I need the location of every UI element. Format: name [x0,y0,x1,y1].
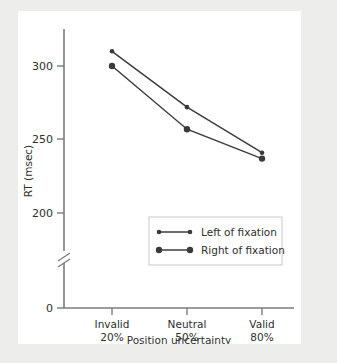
data-point [260,150,265,155]
y-tick-label-300: 300 [32,60,53,73]
legend-marker-left-start [157,230,162,235]
data-point [259,155,265,161]
series-markers-left-of-fixation [110,49,265,155]
legend: Left of fixation Right of fixation [149,217,285,265]
series-markers-right-of-fixation [109,63,265,162]
legend-box [149,217,282,265]
data-point [109,63,115,69]
x-sublabel-invalid: 20% [100,331,123,343]
data-point [184,126,190,132]
x-label-valid: Valid [249,318,274,330]
x-sublabel-valid: 80% [250,331,273,343]
legend-marker-right-start [156,247,162,253]
data-point [185,105,190,110]
legend-marker-left-end [188,230,193,235]
x-axis-title: Position uncertainty [127,334,232,344]
line-chart: 300 250 200 0 Invalid 20% Neutral 50% Va… [18,11,301,344]
legend-label-right-of-fixation: Right of fixation [201,244,285,256]
series-line-right-of-fixation [112,66,262,159]
y-tick-label-200: 200 [32,207,53,220]
legend-label-left-of-fixation: Left of fixation [201,226,277,238]
y-tick-label-0: 0 [46,302,53,315]
plot-panel: 300 250 200 0 Invalid 20% Neutral 50% Va… [18,11,301,344]
data-point [110,49,115,54]
x-label-neutral: Neutral [168,318,207,330]
x-label-invalid: Invalid [95,318,130,330]
y-axis-title: RT (msec) [22,145,34,197]
series-line-left-of-fixation [112,51,262,152]
figure-container: 300 250 200 0 Invalid 20% Neutral 50% Va… [0,0,337,363]
legend-marker-right-end [187,247,193,253]
y-tick-label-250: 250 [32,133,53,146]
